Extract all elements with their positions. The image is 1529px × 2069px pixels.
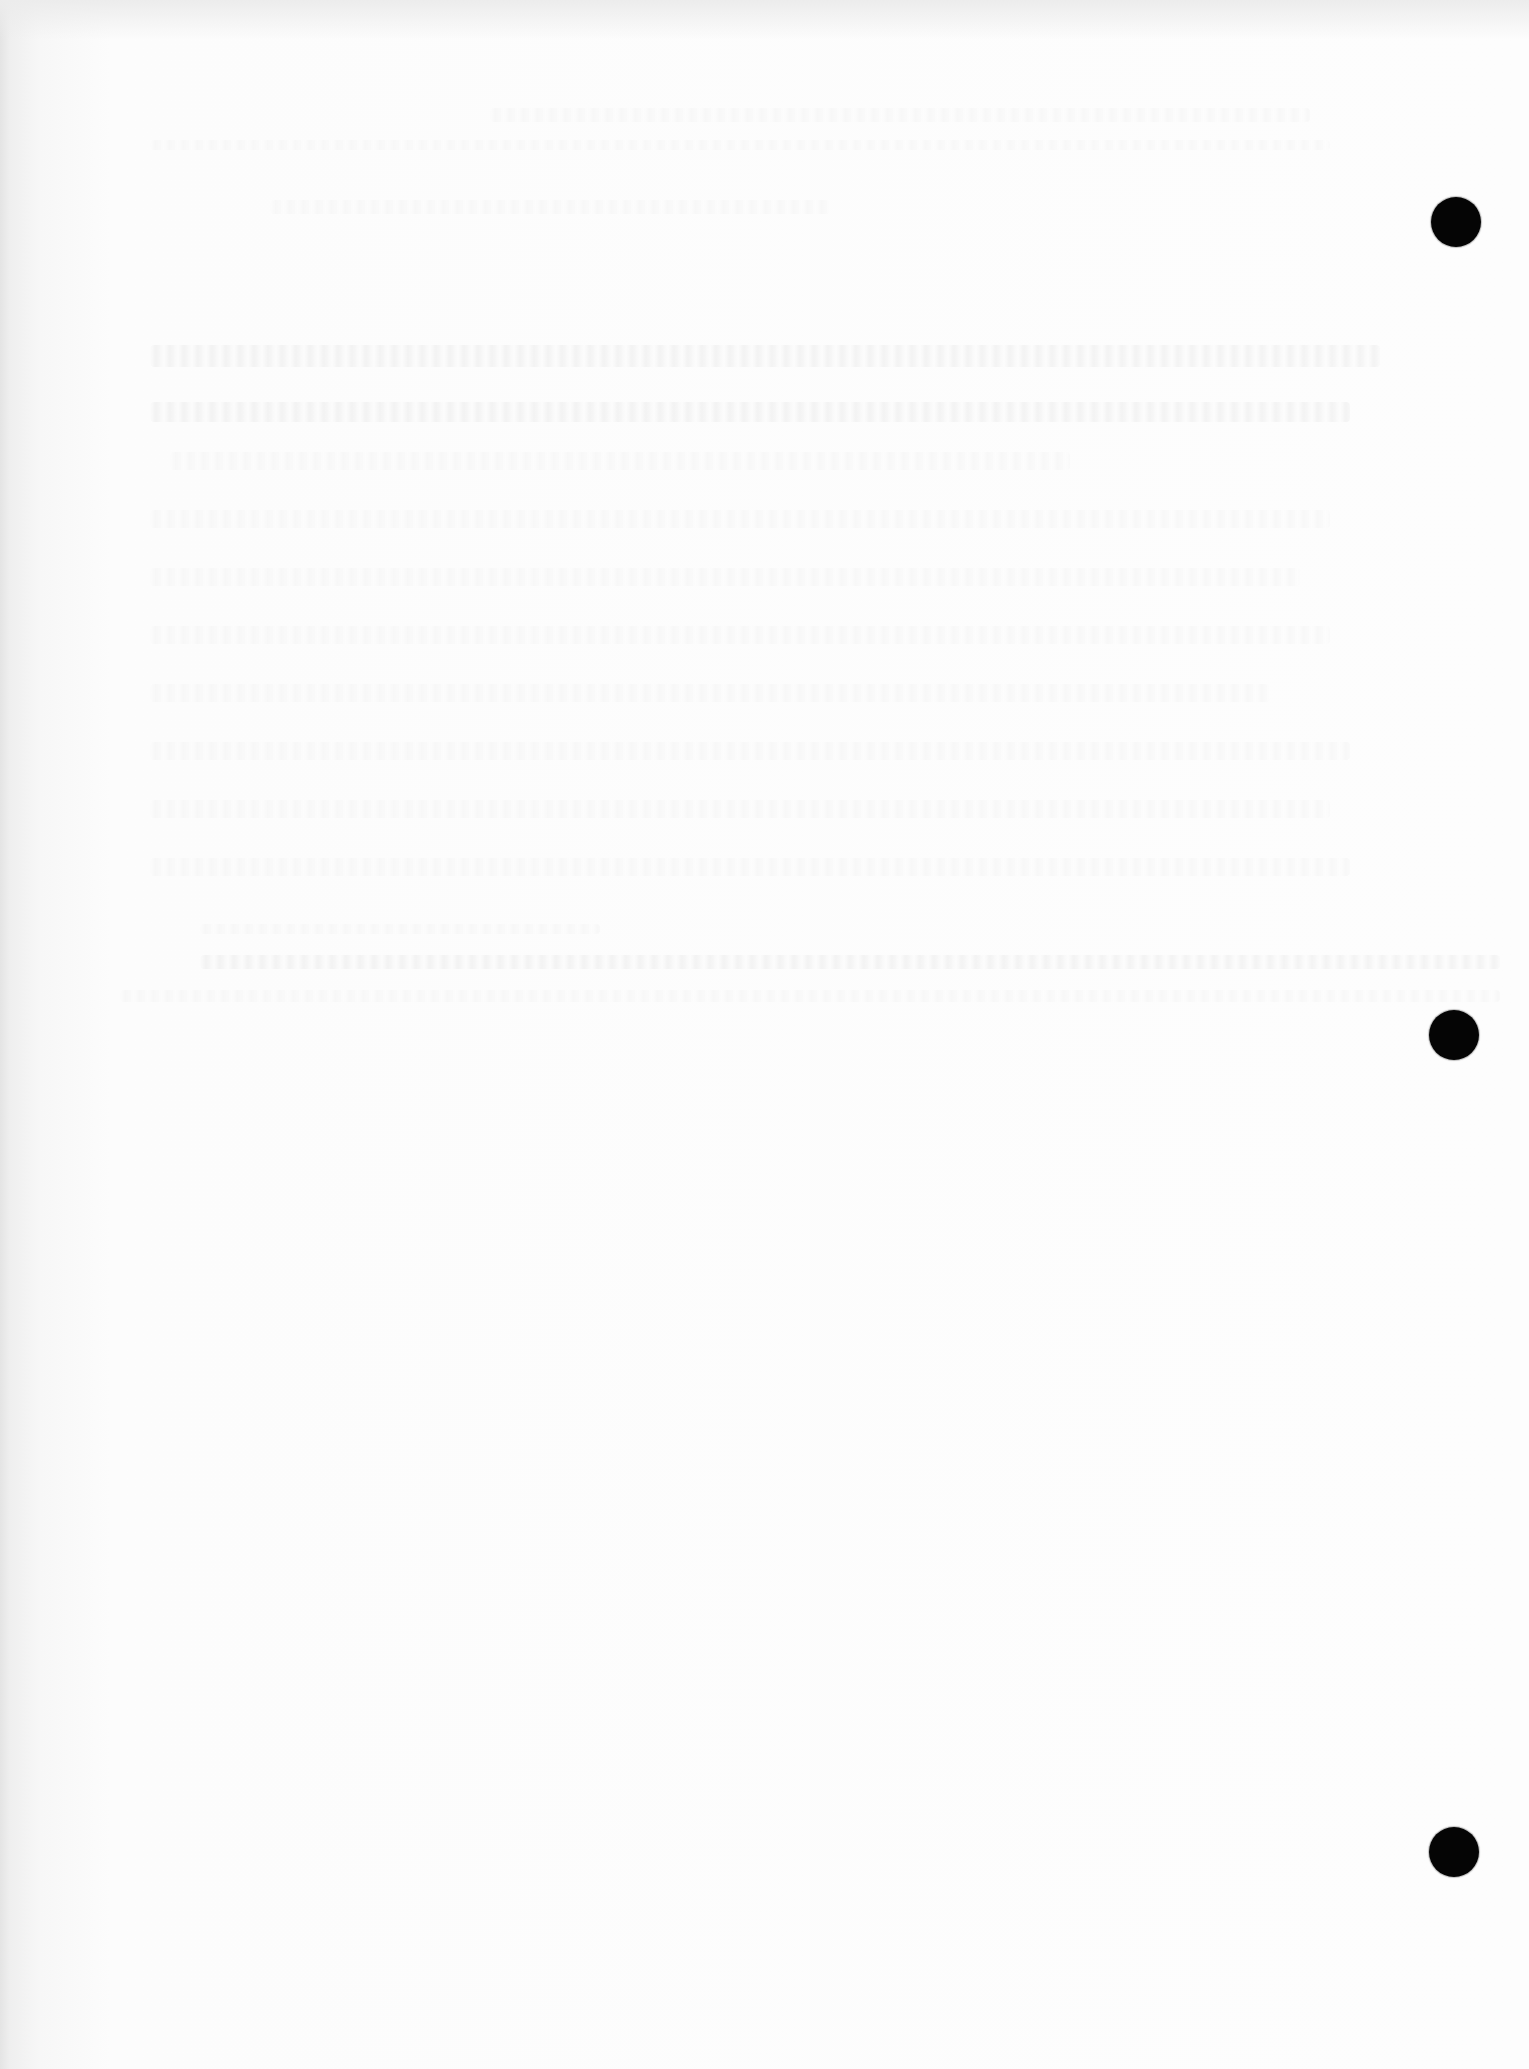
punch-hole-middle [1429, 1010, 1479, 1060]
bleed-through-line [170, 452, 1070, 470]
bleed-through-line [150, 568, 1300, 586]
bleed-through-line [150, 684, 1270, 702]
bleed-through-caption [120, 990, 1500, 1002]
bleed-through-line [150, 510, 1330, 528]
bleed-through-line [150, 345, 1380, 367]
bleed-through-line [150, 858, 1350, 876]
bleed-through-line [270, 200, 830, 214]
bleed-through-caption [200, 924, 600, 934]
scanned-page [0, 0, 1529, 2069]
bleed-through-line [150, 402, 1350, 422]
bleed-through-line [150, 800, 1330, 818]
punch-hole-top [1431, 197, 1481, 247]
bleed-through-caption [200, 955, 1500, 969]
top-edge-shadow [0, 0, 1529, 40]
bleed-through-line [150, 626, 1330, 644]
punch-hole-bottom [1429, 1827, 1479, 1877]
bleed-through-subheader [150, 140, 1330, 150]
bleed-through-header [490, 108, 1310, 122]
bleed-through-line [150, 742, 1350, 760]
